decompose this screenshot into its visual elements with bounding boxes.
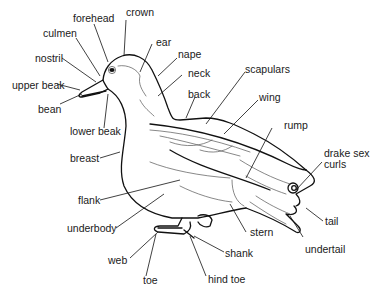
label-web: web <box>108 254 127 266</box>
label-nostril: nostril <box>35 52 63 64</box>
label-hind-toe: hind toe <box>208 273 245 285</box>
label-forehead: forehead <box>73 12 114 24</box>
label-bean: bean <box>38 103 61 115</box>
label-upper-beak: upper beak <box>12 79 65 91</box>
label-crown: crown <box>126 6 154 18</box>
label-toe: toe <box>143 274 158 286</box>
label-wing: wing <box>259 91 281 103</box>
label-undertail: undertail <box>305 243 345 255</box>
label-ear: ear <box>156 36 171 48</box>
label-back: back <box>188 88 210 100</box>
label-breast: breast <box>70 152 99 164</box>
label-shank: shank <box>225 247 253 259</box>
label-scapulars: scapulars <box>245 63 290 75</box>
label-tail: tail <box>325 215 338 227</box>
label-drake-sex-curls-line2: curls <box>324 158 346 170</box>
duck-body-outline <box>79 55 314 233</box>
label-culmen: culmen <box>43 27 77 39</box>
duck-anatomy-diagram: crown forehead culmen ear nostril nape n… <box>0 0 372 296</box>
label-underbody: underbody <box>67 222 117 234</box>
label-nape: nape <box>178 48 201 60</box>
label-neck: neck <box>188 67 210 79</box>
label-lower-beak: lower beak <box>70 125 121 137</box>
label-rump: rump <box>284 119 308 131</box>
label-flank: flank <box>78 194 100 206</box>
label-stern: stern <box>250 226 273 238</box>
